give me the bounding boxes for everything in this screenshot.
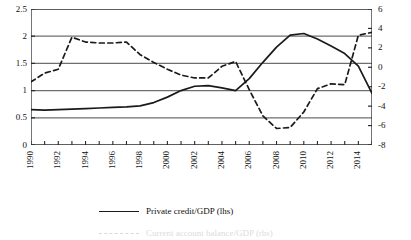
series-line-1	[31, 32, 372, 128]
x-axis-tick-label: 2014	[353, 151, 362, 169]
x-axis-tick-label: 1990	[26, 151, 35, 169]
x-axis-tick-label: 2012	[326, 151, 335, 169]
left-axis-tick-label: 2	[1, 32, 27, 41]
x-axis-tick-label: 2010	[299, 151, 308, 169]
right-axis-tick-label: -8	[378, 141, 402, 150]
left-axis-tick-label: 2.5	[1, 5, 27, 14]
legend-swatch-dashed-line	[99, 233, 139, 234]
chart-figure: 00.511.522.5 -8-6-4-20246 19901992199419…	[0, 0, 411, 240]
right-axis-tick-label: 4	[378, 24, 402, 33]
legend-item-private-credit: Private credit/GDP (lhs)	[99, 206, 233, 216]
x-axis-tick-label: 1992	[53, 151, 62, 169]
x-axis-tick-label: 2008	[272, 151, 281, 169]
right-axis-tick-label: 2	[378, 43, 402, 52]
right-axis-tick-label: 6	[378, 5, 402, 14]
legend-item-current-account: Current account balance/GDP (rhs)	[99, 228, 273, 238]
x-axis-tick-label: 2006	[244, 151, 253, 169]
x-axis-tick-label: 2004	[217, 151, 226, 169]
right-axis-tick-label: -4	[378, 102, 402, 111]
x-axis-tick-label: 1996	[108, 151, 117, 169]
right-axis-tick-label: -6	[378, 121, 402, 130]
left-axis-tick-label: 1	[1, 86, 27, 95]
left-axis-tick-label: 0	[1, 141, 27, 150]
x-axis-tick-label: 2000	[162, 151, 171, 169]
plot-area	[31, 9, 372, 145]
x-axis-tick-label: 2002	[190, 151, 199, 169]
left-axis-tick-label: 0.5	[1, 113, 27, 122]
right-axis-tick-label: -2	[378, 82, 402, 91]
legend-label-private-credit: Private credit/GDP (lhs)	[146, 206, 233, 216]
legend-label-current-account: Current account balance/GDP (rhs)	[146, 228, 273, 238]
x-axis-tick-label: 1998	[135, 151, 144, 169]
left-axis-tick-label: 1.5	[1, 59, 27, 68]
legend-swatch-solid-line	[99, 211, 139, 212]
series-line-0	[31, 33, 372, 110]
x-axis-tick-label: 1994	[81, 151, 90, 169]
right-axis-tick-label: 0	[378, 63, 402, 72]
